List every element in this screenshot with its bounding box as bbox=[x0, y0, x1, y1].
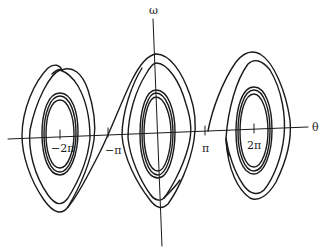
theta-axis-label: θ bbox=[312, 122, 319, 133]
tick-label-pi: π bbox=[202, 143, 209, 154]
phase-portrait-svg bbox=[0, 0, 324, 252]
tick-label-neg-pi: −π bbox=[105, 145, 121, 156]
tick-label-neg-2pi: −2π bbox=[51, 143, 74, 154]
phase-portrait-diagram: ω θ −2π −π π 2π bbox=[0, 0, 324, 252]
left-outer-trajectory bbox=[22, 65, 95, 212]
omega-axis-label: ω bbox=[149, 5, 158, 16]
right-outer-trajectory bbox=[208, 52, 290, 199]
tick-label-2pi: 2π bbox=[247, 140, 261, 151]
